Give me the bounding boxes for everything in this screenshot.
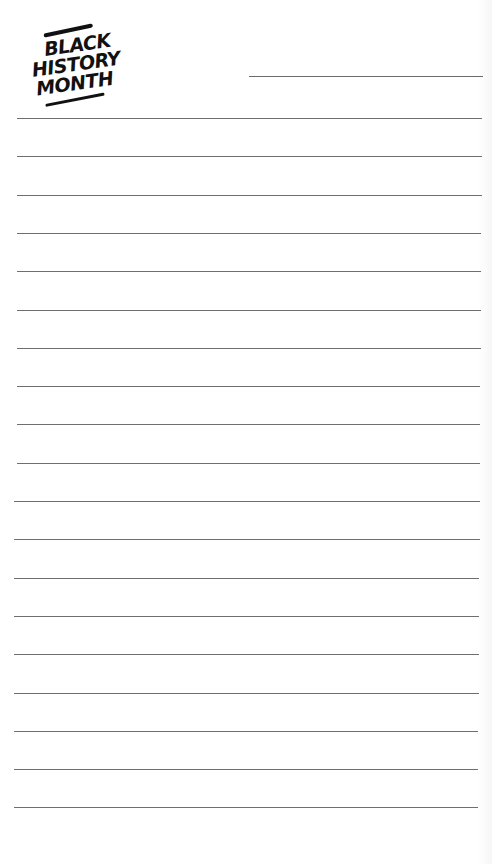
ruled-line[interactable] [17,118,482,119]
ruled-line[interactable] [17,195,482,196]
black-history-month-logo: BLACK HISTORY MONTH [21,16,128,113]
ruled-line[interactable] [17,348,481,349]
ruled-line[interactable] [14,501,480,502]
ruled-line[interactable] [14,539,480,540]
ruled-line[interactable] [14,769,478,770]
ruled-line[interactable] [14,807,478,808]
ruled-line[interactable] [14,578,479,579]
ruled-line[interactable] [14,731,478,732]
ruled-line[interactable] [17,386,480,387]
ruled-line[interactable] [17,156,482,157]
ruled-line[interactable] [17,463,480,464]
ruled-line[interactable] [14,693,479,694]
ruled-line[interactable] [17,233,481,234]
ruled-line[interactable] [17,310,481,311]
name-write-line[interactable] [249,76,483,77]
page-edge-shadow [478,0,492,864]
ruled-line[interactable] [14,654,479,655]
ruled-line[interactable] [17,424,480,425]
ruled-line[interactable] [17,271,481,272]
ruled-line[interactable] [14,616,479,617]
